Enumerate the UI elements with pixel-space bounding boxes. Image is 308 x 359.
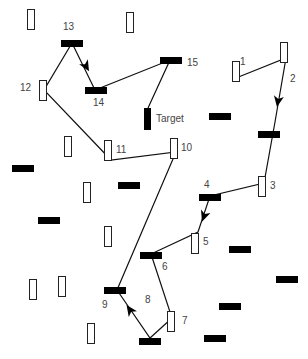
white-rectangle bbox=[191, 233, 199, 254]
node-number-label: 1 bbox=[240, 57, 246, 67]
white-rectangle bbox=[167, 311, 175, 332]
white-rectangle bbox=[58, 276, 66, 297]
white-rectangle bbox=[280, 42, 288, 63]
node-number-label: 7 bbox=[182, 316, 188, 326]
black-bar bbox=[104, 287, 126, 294]
node-number-label: 15 bbox=[187, 58, 198, 68]
white-rectangle bbox=[126, 12, 134, 33]
arrowhead-icon bbox=[197, 210, 210, 224]
white-rectangle bbox=[27, 9, 35, 30]
node-number-label: 6 bbox=[162, 262, 168, 272]
node-number-label: 8 bbox=[145, 295, 151, 305]
node-number-label: 13 bbox=[63, 22, 74, 32]
white-rectangle bbox=[104, 226, 112, 247]
node-number-label: 4 bbox=[204, 180, 210, 190]
node-number-label: 3 bbox=[270, 181, 276, 191]
black-bar bbox=[12, 165, 34, 172]
black-bar bbox=[139, 338, 161, 345]
white-rectangle bbox=[29, 279, 37, 300]
white-rectangle bbox=[87, 323, 95, 344]
trail-path bbox=[44, 43, 286, 338]
black-bar bbox=[229, 246, 251, 253]
black-bar bbox=[199, 194, 221, 201]
target-label: Target bbox=[156, 114, 184, 124]
black-bar bbox=[276, 276, 298, 283]
white-rectangle bbox=[39, 80, 47, 101]
node-number-label: 11 bbox=[116, 145, 126, 155]
node-number-label: 5 bbox=[203, 237, 209, 247]
white-rectangle bbox=[258, 176, 266, 197]
white-rectangle bbox=[232, 61, 240, 82]
arrowhead-icon bbox=[122, 302, 137, 317]
white-rectangle bbox=[170, 138, 178, 159]
white-rectangle bbox=[104, 140, 112, 161]
black-bar bbox=[85, 87, 107, 94]
black-bar bbox=[258, 131, 280, 138]
node-number-label: 14 bbox=[93, 98, 104, 108]
target-marker bbox=[144, 108, 151, 130]
black-bar bbox=[219, 303, 241, 310]
node-number-label: 10 bbox=[181, 143, 192, 153]
node-number-label: 9 bbox=[102, 300, 108, 310]
black-bar bbox=[209, 113, 231, 120]
node-number-label: 12 bbox=[20, 83, 31, 93]
black-bar bbox=[61, 40, 83, 47]
black-bar bbox=[38, 217, 60, 224]
white-rectangle bbox=[64, 136, 72, 157]
node-number-label: 2 bbox=[290, 74, 296, 84]
black-bar bbox=[118, 182, 140, 189]
black-bar bbox=[160, 57, 182, 64]
trail-diagram: 123456789101112131415 Target bbox=[0, 0, 308, 359]
white-rectangle bbox=[83, 182, 91, 203]
black-bar bbox=[140, 252, 162, 259]
black-bar bbox=[204, 335, 226, 342]
